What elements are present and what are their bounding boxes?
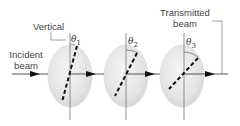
theta-1-label: θ1 <box>71 34 81 47</box>
incident-label-line1: Incident <box>8 49 44 60</box>
incident-beam-label: Incident beam <box>8 49 44 71</box>
incident-label-line2: beam <box>8 60 44 71</box>
vertical-leader <box>51 32 66 40</box>
transmitted-label-line1: Transmitted <box>155 7 215 18</box>
transmitted-label-line2: beam <box>155 18 215 29</box>
theta-2-label: θ2 <box>128 36 138 49</box>
polarizer-disk-3 <box>160 45 204 107</box>
theta-3-label: θ3 <box>186 37 196 50</box>
vertical-label: Vertical <box>33 21 64 32</box>
transmitted-beam-label: Transmitted beam <box>155 7 215 29</box>
